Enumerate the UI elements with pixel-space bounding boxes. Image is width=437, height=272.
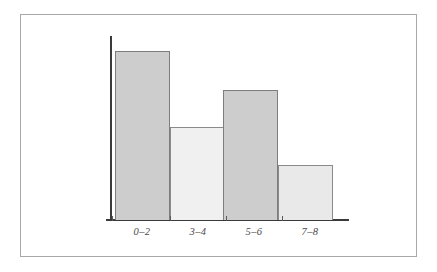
figure: 0–23–45–67–8 <box>0 0 437 272</box>
x-axis-tick-label: 7–8 <box>280 226 340 237</box>
x-axis-tick-label: 5–6 <box>224 226 284 237</box>
x-axis-tick-3 <box>282 216 283 221</box>
x-axis-tick-label: 3–4 <box>168 226 228 237</box>
x-axis-tick-0 <box>112 216 113 221</box>
x-axis-tick-1 <box>170 216 171 221</box>
x-axis-tick-label: 0–2 <box>112 226 172 237</box>
x-axis-tick-2 <box>226 216 227 221</box>
bar-chart-plot-area: 0–23–45–67–8 <box>0 0 437 272</box>
bar-5-6 <box>223 90 278 220</box>
bar-7-8 <box>278 165 333 220</box>
y-axis-line <box>110 36 112 221</box>
bar-0-2 <box>115 51 170 220</box>
bar-3-4 <box>170 127 225 220</box>
